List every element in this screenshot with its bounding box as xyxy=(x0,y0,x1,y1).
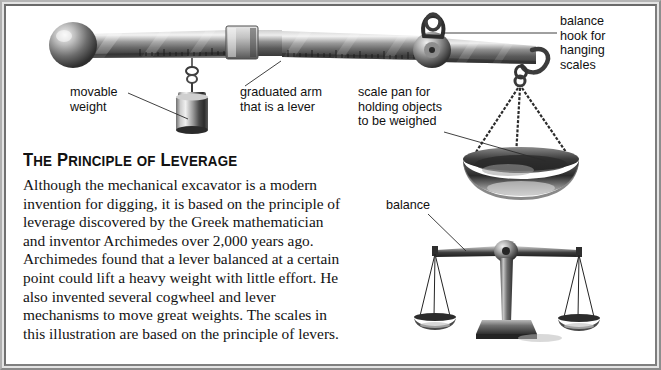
balance-beam-right xyxy=(512,246,578,257)
heading-part-2-rest: RINCIPLE xyxy=(68,153,132,169)
heading-part-4-rest: EVERAGE xyxy=(171,153,238,169)
heading-part-1: T xyxy=(23,150,33,170)
heading-part-2: P xyxy=(57,150,68,170)
balance-beam-left xyxy=(436,246,500,257)
balance-pan-left-strings xyxy=(420,254,450,317)
counterweight-ball xyxy=(49,22,97,68)
balance-pan-left xyxy=(414,313,456,321)
heading-part-3: OF xyxy=(137,153,156,169)
heading-part-4: L xyxy=(160,150,170,170)
callout-graduated-arm: graduated arm that is a lever xyxy=(240,85,322,114)
balance-base xyxy=(476,320,537,334)
heading-part-1-rest: HE xyxy=(33,153,52,169)
callout-movable-weight: movable weight xyxy=(70,85,118,114)
balance-pan-right-strings xyxy=(564,255,594,318)
callout-balance: balance xyxy=(386,198,430,213)
section-body-text: Although the mechanical excavator is a m… xyxy=(23,176,341,343)
illustration-page: movable weight graduated arm that is a l… xyxy=(0,0,661,370)
balance-pillar xyxy=(500,258,513,322)
balance-pan-right xyxy=(558,314,600,322)
callout-balance-hook: balance hook for hanging scales xyxy=(560,14,606,72)
scale-pan-assembly xyxy=(463,88,579,200)
section-heading: THE PRINCIPLE OF LEVERAGE xyxy=(23,150,237,171)
pan-chains xyxy=(476,88,566,156)
steelyard-assembly xyxy=(49,14,548,134)
movable-weight-cylinder xyxy=(176,97,208,130)
balance-scale-assembly xyxy=(414,240,600,342)
callout-scale-pan: scale pan for holding objects to be weig… xyxy=(358,85,442,129)
